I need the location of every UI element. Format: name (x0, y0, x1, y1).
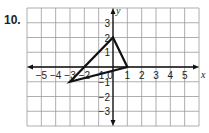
y-tick-label: −2 (99, 92, 111, 103)
tick-labels: −5−4−3−2−1012345321−1−2−3xy (36, 5, 206, 117)
y-axis-arrow-down (111, 120, 116, 126)
x-axis-arrow-left (27, 65, 33, 70)
y-tick-label: 1 (104, 47, 110, 58)
x-axis-arrow-right (193, 65, 199, 70)
y-axis-label: y (115, 5, 121, 16)
x-tick-label: 2 (139, 70, 145, 81)
x-tick-label: 1 (125, 70, 131, 81)
x-axis-label: x (200, 69, 206, 80)
x-tick-label: 5 (182, 70, 188, 81)
y-axis-arrow-up (111, 8, 116, 14)
axes (27, 8, 199, 126)
x-tick-label: 4 (168, 70, 174, 81)
x-tick-label: −3 (64, 70, 76, 81)
coordinate-plane: −5−4−3−2−1012345321−1−2−3xy (0, 0, 209, 133)
y-tick-label: −3 (99, 106, 111, 117)
x-tick-label: 3 (153, 70, 159, 81)
y-tick-label: −1 (99, 77, 111, 88)
x-tick-label: −4 (50, 70, 62, 81)
x-tick-label: −5 (36, 70, 48, 81)
y-tick-label: 3 (104, 18, 110, 29)
